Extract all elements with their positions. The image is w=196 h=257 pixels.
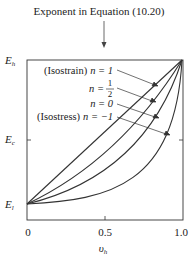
x-tick-label-1: 1.0	[174, 226, 188, 238]
curve-isostrain-n1	[27, 60, 182, 204]
label-n-half: n =	[89, 83, 104, 94]
composite-modulus-diagram: Exponent in Equation (10.20) Eh Ec El 0 …	[0, 0, 196, 257]
diagram-title: Exponent in Equation (10.20)	[34, 5, 165, 18]
x-tick-label-05: 0.5	[98, 226, 112, 238]
label-isostress: (Isostress)n = −1	[37, 111, 113, 123]
leader-n0-head	[153, 114, 159, 118]
y-label-eh: Eh	[4, 54, 16, 68]
title-arrow-head	[102, 42, 107, 48]
x-axis-label: υh	[99, 242, 108, 256]
leader-n-half	[117, 88, 152, 101]
leader-isostress-head	[164, 131, 170, 135]
label-n0: n = 0	[90, 98, 114, 109]
y-label-el: El	[4, 198, 14, 212]
y-label-ec: Ec	[4, 133, 16, 147]
leader-isostrain	[117, 70, 155, 85]
plot-frame	[27, 60, 183, 220]
label-n-half-num: 1	[108, 78, 113, 88]
label-isostrain: (Isostrain)n = 1	[44, 65, 113, 77]
leader-isostress	[117, 117, 166, 134]
x-tick-label-0: 0	[25, 226, 31, 238]
